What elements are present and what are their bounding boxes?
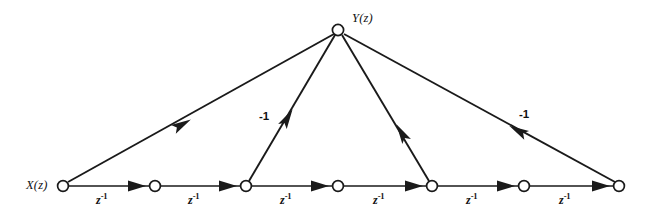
node-state-5[interactable] — [519, 181, 530, 192]
diagonal-branches — [68, 34, 615, 182]
output-label: Y(z) — [352, 12, 373, 25]
arrowhead-right-4 — [497, 181, 515, 192]
delay-label-4-exponent: -1 — [471, 191, 478, 201]
diagonal-arrowheads — [171, 107, 529, 144]
delay-label-3-exponent: -1 — [378, 191, 385, 201]
arrowhead-right-0 — [128, 181, 146, 192]
node-state-2[interactable] — [241, 181, 252, 192]
arrowhead-right-3 — [405, 181, 423, 192]
gain-label-n2-to-y: -1 — [259, 111, 269, 123]
node-state-6[interactable] — [614, 181, 625, 192]
input-label: X(z) — [26, 179, 48, 192]
delay-label-1: z-1 — [188, 194, 199, 206]
delay-label-5: z-1 — [559, 194, 570, 206]
arrowhead-right-5 — [592, 181, 610, 192]
gain-label-n6-to-y: -1 — [519, 109, 529, 121]
arrowhead-right-1 — [219, 181, 237, 192]
node-state-3[interactable] — [333, 181, 344, 192]
arrowhead-right-2 — [311, 181, 329, 192]
node-state-4[interactable] — [427, 181, 438, 192]
flowgraph-canvas — [0, 0, 656, 217]
delay-label-0-exponent: -1 — [101, 191, 108, 201]
node-output-y[interactable] — [332, 24, 343, 35]
delay-label-1-exponent: -1 — [193, 191, 200, 201]
node-input-x[interactable] — [58, 181, 69, 192]
delay-label-4: z-1 — [466, 194, 477, 206]
node-state-1[interactable] — [150, 181, 161, 192]
delay-label-0: z-1 — [96, 194, 107, 206]
delay-label-2-exponent: -1 — [285, 191, 292, 201]
delay-label-3: z-1 — [373, 194, 384, 206]
signal-flow-graph-figure: X(z) Y(z) z-1 z-1 z-1 z-1 z-1 z-1 -1 -1 — [0, 0, 656, 217]
delay-label-2: z-1 — [280, 194, 291, 206]
nodes — [58, 24, 625, 191]
diagonal-branch-n0-to-y — [68, 34, 334, 182]
delay-label-5-exponent: -1 — [564, 191, 571, 201]
